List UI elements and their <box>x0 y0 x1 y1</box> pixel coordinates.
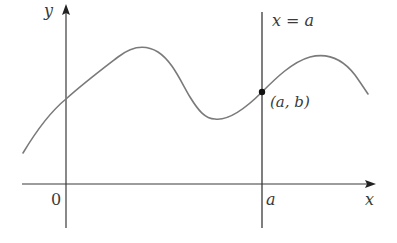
point-label: (a, b) <box>270 95 310 110</box>
function-graph-diagram: y 0 a x x = a (a, b) <box>0 0 397 243</box>
function-curve <box>23 47 368 153</box>
vertical-line-label: x = a <box>272 13 314 29</box>
x-tick-label-a: a <box>266 192 276 208</box>
intersection-point <box>259 89 265 95</box>
y-axis-label: y <box>44 3 53 19</box>
x-axis-label: x <box>365 192 374 208</box>
origin-label: 0 <box>51 192 61 208</box>
